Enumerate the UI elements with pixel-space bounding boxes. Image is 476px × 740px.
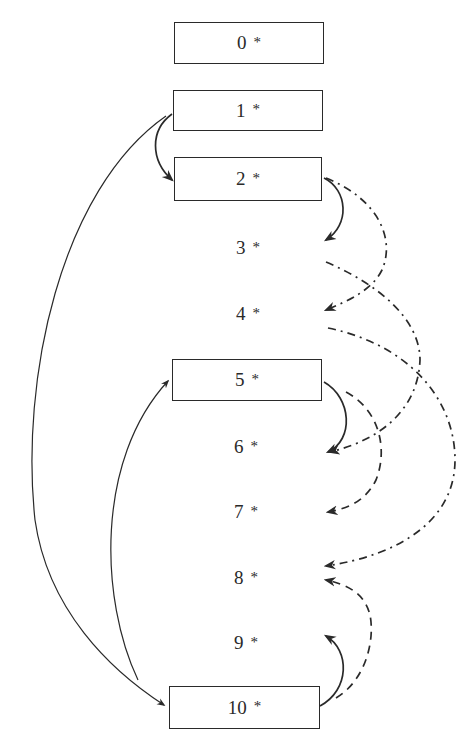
node-9: 9 * bbox=[172, 623, 320, 663]
edge-3-to-6 bbox=[326, 262, 420, 452]
node-label: 3 bbox=[236, 237, 246, 259]
asterisk-icon: * bbox=[253, 305, 261, 322]
asterisk-icon: * bbox=[253, 101, 261, 118]
asterisk-icon: * bbox=[253, 239, 261, 256]
asterisk-icon: * bbox=[251, 569, 259, 586]
node-7: 7 * bbox=[172, 492, 320, 532]
node-label: 0 bbox=[237, 32, 247, 54]
node-label: 1 bbox=[236, 100, 246, 122]
edge-10-to-8 bbox=[326, 580, 371, 698]
node-label: 6 bbox=[234, 436, 244, 458]
node-label: 7 bbox=[234, 501, 244, 523]
asterisk-icon: * bbox=[254, 34, 262, 51]
node-label: 4 bbox=[236, 303, 246, 325]
node-10: 10 * bbox=[169, 686, 320, 729]
node-1: 1 * bbox=[173, 90, 323, 131]
node-label: 10 bbox=[228, 697, 247, 719]
edge-5-to-6 bbox=[324, 382, 346, 452]
node-8: 8 * bbox=[172, 558, 320, 598]
asterisk-icon: * bbox=[251, 634, 259, 651]
asterisk-icon: * bbox=[251, 438, 259, 455]
node-3: 3 * bbox=[174, 228, 322, 268]
edge-10-to-5 bbox=[111, 381, 168, 680]
node-label: 8 bbox=[234, 567, 244, 589]
node-0: 0 * bbox=[174, 22, 324, 64]
asterisk-icon: * bbox=[253, 170, 261, 187]
edge-1-to-2 bbox=[156, 114, 173, 180]
edge-2-to-4 bbox=[326, 178, 386, 310]
edge-2-to-3 bbox=[324, 178, 343, 240]
node-6: 6 * bbox=[172, 427, 320, 467]
node-label: 9 bbox=[234, 632, 244, 654]
asterisk-icon: * bbox=[254, 698, 262, 715]
asterisk-icon: * bbox=[252, 371, 260, 388]
node-2: 2 * bbox=[174, 157, 322, 201]
asterisk-icon: * bbox=[251, 503, 259, 520]
node-label: 2 bbox=[236, 168, 246, 190]
edge-5-to-7 bbox=[328, 392, 381, 512]
linked-list-diagram: 0 * 1 * 2 * 3 * 4 * 5 * 6 * 7 * 8 * 9 * … bbox=[0, 0, 476, 740]
node-5: 5 * bbox=[172, 359, 322, 401]
node-4: 4 * bbox=[174, 294, 322, 334]
node-label: 5 bbox=[235, 369, 245, 391]
